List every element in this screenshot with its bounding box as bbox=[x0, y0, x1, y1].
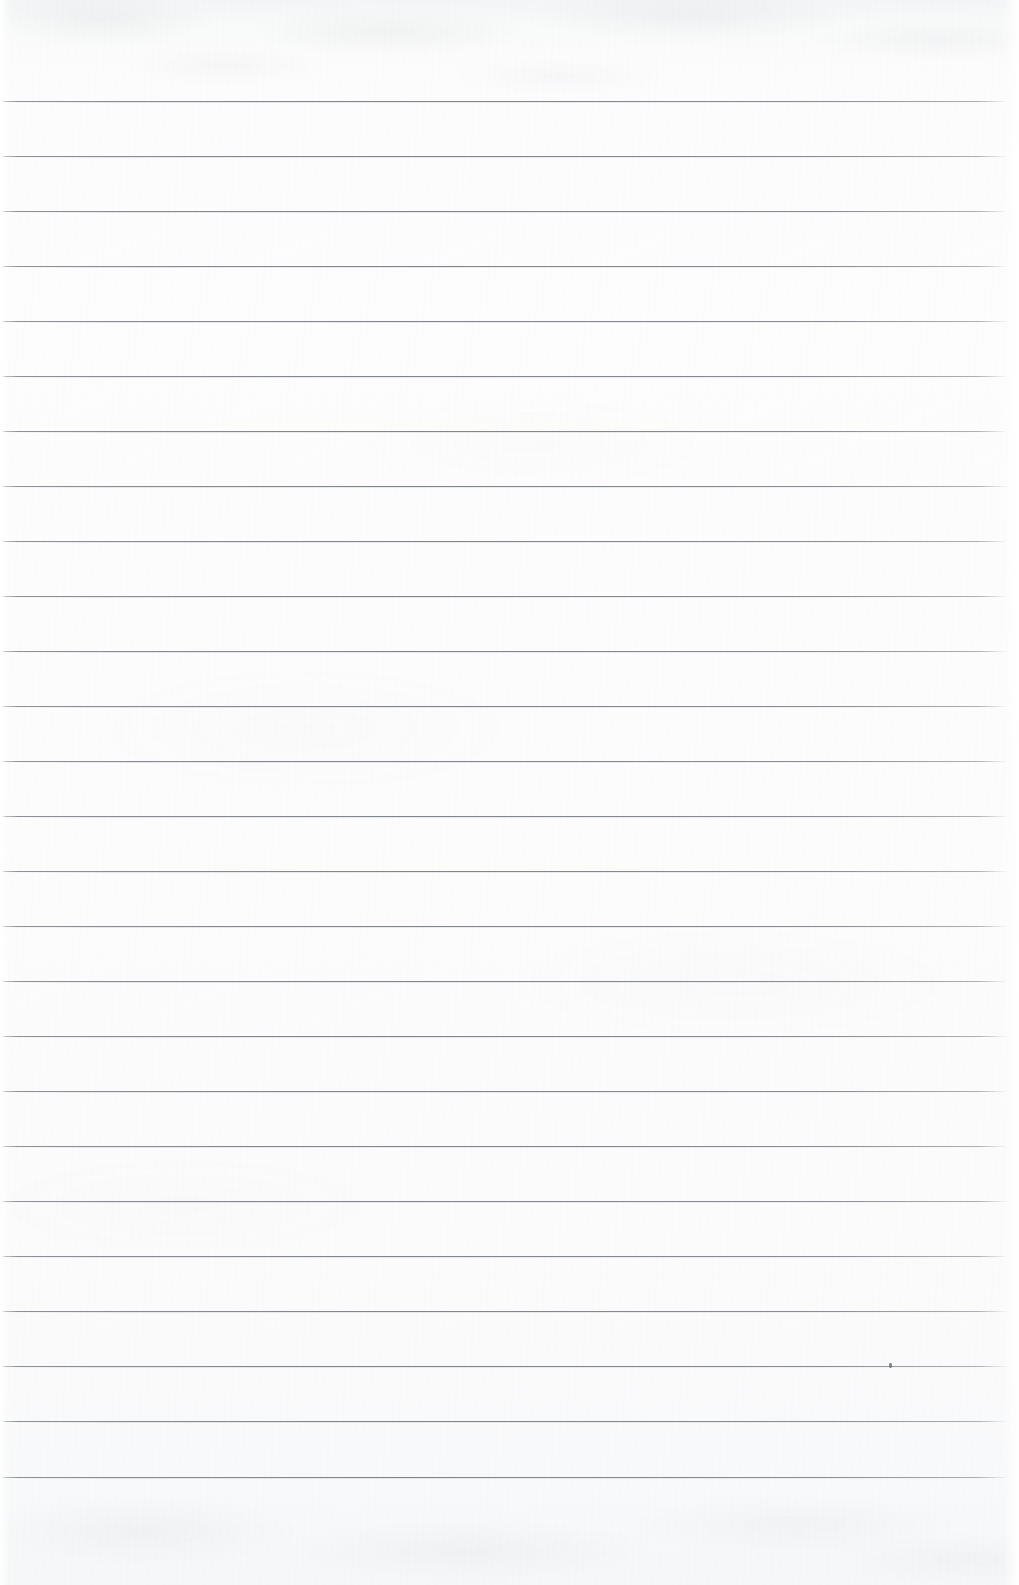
lined-paper-page bbox=[0, 0, 1019, 1585]
ruled-line-group bbox=[0, 0, 1019, 1585]
ruled-line bbox=[2, 101, 1008, 102]
ruled-line bbox=[2, 266, 1008, 267]
ruled-line bbox=[2, 981, 1008, 982]
ruled-line bbox=[2, 816, 1008, 817]
ruled-line bbox=[2, 156, 1008, 157]
ruled-line bbox=[2, 1036, 1008, 1037]
ruled-line bbox=[2, 1146, 1008, 1147]
ruled-line bbox=[2, 1201, 1008, 1202]
ruled-line bbox=[2, 926, 1008, 927]
ruled-line bbox=[2, 1421, 1008, 1422]
ruled-line bbox=[2, 1477, 1008, 1478]
ruled-line bbox=[2, 486, 1008, 487]
ruled-line bbox=[2, 1091, 1008, 1092]
ruled-line bbox=[2, 1366, 1008, 1367]
ruled-line bbox=[2, 596, 1008, 597]
ruled-line bbox=[2, 871, 1008, 872]
ruled-line bbox=[2, 431, 1008, 432]
ruled-line bbox=[2, 321, 1008, 322]
ruled-line bbox=[2, 761, 1008, 762]
ruled-line bbox=[2, 376, 1008, 377]
ruled-line bbox=[2, 651, 1008, 652]
ink-speck bbox=[889, 1363, 892, 1368]
ruled-line bbox=[2, 1256, 1008, 1257]
ruled-line bbox=[2, 706, 1008, 707]
ruled-line bbox=[2, 1311, 1008, 1312]
ruled-line bbox=[2, 541, 1008, 542]
ruled-line bbox=[2, 211, 1008, 212]
